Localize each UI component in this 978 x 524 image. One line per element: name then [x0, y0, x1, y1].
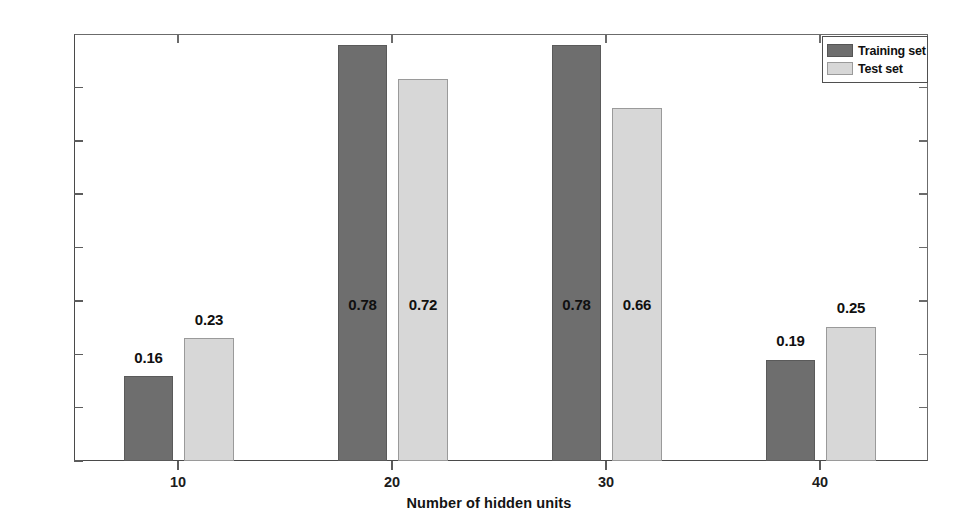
bar-test-40: [826, 327, 876, 462]
legend-label-training: Training set: [858, 44, 926, 58]
x-tick-label: 20: [352, 474, 432, 490]
bar-value-training-40: 0.19: [756, 332, 826, 349]
x-tick-mark: [605, 461, 606, 470]
x-tick-mark-top: [819, 34, 820, 43]
y-tick-mark: [74, 354, 83, 355]
bar-value-test-10: 0.23: [174, 311, 244, 328]
y-tick-mark: [74, 140, 83, 141]
bar-value-training-30: 0.78: [542, 296, 612, 313]
y-tick-mark: [74, 87, 83, 88]
bar-training-40: [766, 360, 815, 461]
y-tick-mark: [74, 460, 83, 461]
bar-training-10: [124, 376, 173, 461]
bar-test-10: [184, 338, 234, 461]
legend: Training set Test set: [822, 36, 928, 83]
bar-test-20: [398, 79, 448, 461]
y-tick-mark-right: [919, 407, 928, 408]
y-tick-mark-right: [919, 140, 928, 141]
legend-item-test: Test set: [827, 60, 923, 77]
bar-chart-figure: 0 0.1 0.2 0.3 0.4 0.5 0.6 0.7 0.8: [0, 0, 978, 524]
x-axis-title: Number of hidden units: [0, 495, 978, 511]
y-tick-mark-right: [919, 247, 928, 248]
bar-test-30: [612, 108, 662, 461]
legend-swatch-test-icon: [827, 62, 853, 75]
x-tick-label: 10: [138, 474, 218, 490]
legend-swatch-training-icon: [827, 44, 853, 57]
bar-training-30: [552, 45, 601, 461]
x-tick-mark-top: [177, 34, 178, 43]
bar-value-training-20: 0.78: [328, 296, 398, 313]
bar-training-20: [338, 45, 387, 461]
y-tick-mark: [74, 247, 83, 248]
x-tick-mark: [177, 461, 178, 470]
x-tick-mark-top: [391, 34, 392, 43]
x-tick-label: 30: [566, 474, 646, 490]
x-tick-mark-top: [605, 34, 606, 43]
x-tick-label: 40: [780, 474, 860, 490]
x-tick-mark: [819, 461, 820, 470]
y-tick-mark: [74, 407, 83, 408]
bar-value-test-40: 0.25: [816, 299, 886, 316]
y-tick-mark-right: [919, 354, 928, 355]
bar-value-training-10: 0.16: [114, 349, 184, 366]
legend-label-test: Test set: [858, 62, 903, 76]
y-tick-mark-right: [919, 87, 928, 88]
y-tick-mark: [74, 300, 83, 301]
x-tick-mark: [391, 461, 392, 470]
y-tick-mark: [74, 193, 83, 194]
legend-item-training: Training set: [827, 42, 923, 59]
bar-value-test-20: 0.72: [388, 296, 458, 313]
bar-value-test-30: 0.66: [602, 296, 672, 313]
y-tick-mark-right: [919, 193, 928, 194]
y-tick-mark-right: [919, 300, 928, 301]
